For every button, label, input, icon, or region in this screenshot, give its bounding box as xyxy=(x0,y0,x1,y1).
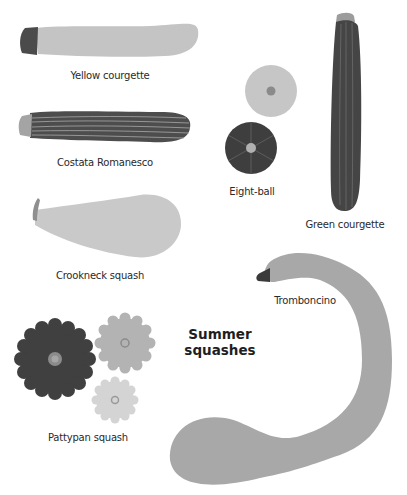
tromboncino-label: Tromboncino xyxy=(274,295,336,306)
title-line-2: squashes xyxy=(184,342,255,358)
page-title: Summer squashes xyxy=(184,326,255,358)
green-courgette-label: Green courgette xyxy=(306,219,385,230)
eight-ball-label: Eight-ball xyxy=(229,186,274,197)
green-courgette-illustration xyxy=(331,13,362,211)
pattypan-squash-illustration xyxy=(14,313,156,424)
squash-illustration xyxy=(0,0,407,495)
costata-romanesco-illustration xyxy=(19,111,191,142)
pattypan-squash-label: Pattypan squash xyxy=(48,432,128,443)
eight-ball-illustration xyxy=(225,65,297,174)
tromboncino-illustration xyxy=(170,253,392,485)
crookneck-squash-label: Crookneck squash xyxy=(56,270,144,281)
title-line-1: Summer xyxy=(184,326,255,342)
yellow-courgette-label: Yellow courgette xyxy=(70,70,149,81)
crookneck-squash-illustration xyxy=(33,195,181,258)
yellow-courgette-illustration xyxy=(20,24,198,57)
costata-romanesco-label: Costata Romanesco xyxy=(57,157,153,168)
